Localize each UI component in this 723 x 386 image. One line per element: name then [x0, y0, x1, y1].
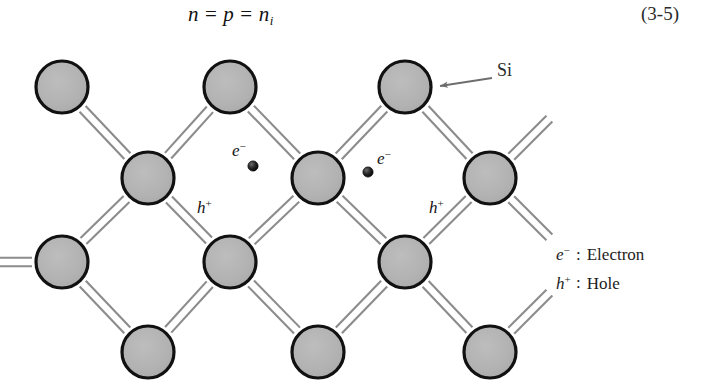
hole-symbol: h+: [429, 197, 444, 217]
silicon-atom: [36, 61, 88, 113]
silicon-atom: [464, 326, 516, 378]
hole-symbol: h+: [197, 197, 212, 217]
legend-electron-symbol-sup: −: [564, 244, 570, 256]
silicon-atom: [204, 236, 256, 288]
bond-layer: [0, 106, 552, 334]
silicon-atom: [122, 326, 174, 378]
legend-electron-symbol: e−: [556, 238, 575, 267]
electron-carrier: e−: [232, 140, 258, 171]
silicon-atom: [204, 61, 256, 113]
legend-hole-symbol: h+: [556, 267, 575, 296]
atom-layer: [36, 61, 516, 378]
silicon-atom: [464, 152, 516, 204]
electron-carrier: e−: [363, 148, 391, 177]
legend-item-electron: e−:Electron: [556, 238, 716, 267]
electron-symbol: e−: [232, 140, 246, 160]
silicon-atom: [379, 61, 431, 113]
electron-dot: [248, 161, 258, 171]
silicon-atom: [292, 152, 344, 204]
legend-hole-symbol-base: h: [556, 273, 565, 292]
hole-carrier: h+: [429, 197, 444, 217]
silicon-atom: [292, 326, 344, 378]
si-callout-label: Si: [497, 60, 512, 80]
lattice-diagram: Si e−e−h+h+: [0, 0, 723, 386]
figure-container: n=p=ni (3-5) Si e−e−h+h+ e: [0, 0, 723, 386]
legend-hole-separator: :: [575, 273, 587, 292]
legend: e−:Electron h+:Hole: [556, 238, 716, 295]
legend-item-hole: h+:Hole: [556, 267, 716, 296]
electron-symbol: e−: [377, 148, 391, 168]
hole-carrier: h+: [197, 197, 212, 217]
legend-electron-name: Electron: [587, 245, 645, 264]
legend-hole-name: Hole: [587, 273, 620, 292]
silicon-atom: [122, 152, 174, 204]
legend-electron-symbol-base: e: [556, 245, 564, 264]
silicon-atom: [379, 236, 431, 288]
silicon-atom: [36, 236, 88, 288]
legend-electron-separator: :: [575, 245, 587, 264]
electron-dot: [363, 167, 373, 177]
si-callout: Si: [440, 60, 512, 86]
legend-hole-symbol-sup: +: [565, 273, 571, 285]
